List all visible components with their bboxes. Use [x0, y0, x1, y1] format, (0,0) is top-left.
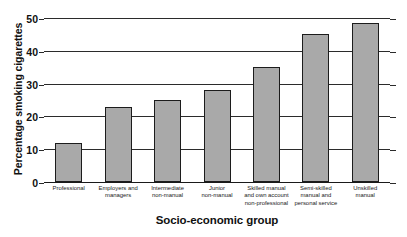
x-tick-label: Semi-skilledmanual andpersonal service [291, 185, 340, 207]
x-tick-label: Professional [44, 185, 93, 192]
plot-area: 01020304050 [44, 18, 390, 182]
gridline-0: 0 [44, 182, 390, 183]
bar [302, 34, 329, 182]
bar [55, 143, 82, 182]
x-axis-title: Socio-economic group [44, 214, 390, 226]
x-tick-label: Intermediatenon-manual [143, 185, 192, 200]
y-tick-label-10: 10 [26, 145, 38, 156]
y-tick-mark-right-40 [390, 52, 396, 53]
y-axis-title: Percentage smoking cigarettes [12, 14, 24, 184]
y-tick-label-20: 20 [26, 112, 38, 123]
x-axis-tick-labels: ProfessionalEmployers andmanagersInterme… [44, 185, 390, 215]
y-tick-mark-right-0 [390, 183, 396, 184]
bar [204, 90, 231, 182]
bar [253, 67, 280, 182]
y-tick-mark-right-20 [390, 117, 396, 118]
x-tick-label: Unskilledmanual [341, 185, 390, 200]
y-tick-label-0: 0 [32, 178, 38, 189]
y-tick-label-30: 30 [26, 79, 38, 90]
y-tick-mark-right-30 [390, 85, 396, 86]
y-tick-label-50: 50 [26, 14, 38, 25]
y-tick-label-40: 40 [26, 47, 38, 58]
y-tick-mark-left-0 [39, 183, 44, 184]
bar [352, 23, 379, 182]
bars-layer [44, 18, 390, 182]
bar-chart: Percentage smoking cigarettes 0102030405… [0, 0, 407, 237]
x-tick-label: Juniornon-manual [192, 185, 241, 200]
y-tick-mark-right-50 [390, 19, 396, 20]
bar [105, 107, 132, 182]
y-tick-mark-right-10 [390, 150, 396, 151]
bar [154, 100, 181, 182]
x-tick-label: Employers andmanagers [93, 185, 142, 200]
x-tick-label: Skilled manualand own accountnon-profess… [242, 185, 291, 207]
